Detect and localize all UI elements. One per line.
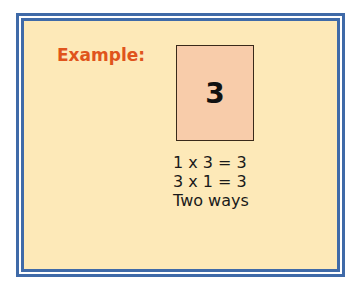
equation-line-2: 3 x 1 = 3 [173, 172, 249, 191]
equation-line-1: 1 x 3 = 3 [173, 153, 249, 172]
explanation-lines: 1 x 3 = 3 3 x 1 = 3 Two ways [173, 153, 249, 210]
card-value: 3 [205, 77, 224, 110]
number-card: 3 [176, 45, 254, 141]
example-label: Example: [57, 45, 145, 65]
summary-line: Two ways [173, 191, 249, 210]
example-frame: Example: 3 1 x 3 = 3 3 x 1 = 3 Two ways [16, 13, 345, 277]
example-panel: Example: 3 1 x 3 = 3 3 x 1 = 3 Two ways [21, 18, 340, 272]
